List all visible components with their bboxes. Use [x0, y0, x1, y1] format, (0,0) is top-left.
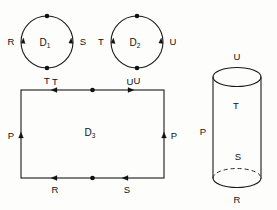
cylinder-label-S: S	[235, 151, 242, 162]
figure-canvas: R S T D1 T U U D2	[0, 0, 277, 210]
cylinder-label-U: U	[233, 51, 240, 62]
rectangle-d3-label-R: R	[51, 184, 58, 195]
cylinder-label-P: P	[200, 126, 207, 137]
circle-d1-vertex-bottom	[45, 66, 50, 71]
rectangle-d3-vertex-top-mid	[90, 88, 95, 93]
circle-d2-group: T U U D2	[98, 14, 177, 86]
circle-d1-label-R: R	[7, 36, 14, 47]
cylinder-group: U T P S R	[200, 51, 261, 205]
rectangle-d3-arrow-top-left	[51, 88, 57, 93]
circle-d1-region-label: D1	[40, 37, 51, 49]
circle-d2-label-U: U	[169, 36, 176, 47]
rectangle-d3-arrow-right-up	[162, 132, 167, 138]
topology-figure: R S T D1 T U U D2	[0, 0, 277, 210]
cylinder-bottom-back-arc-hidden	[213, 169, 261, 178]
rectangle-d3-arrow-bottom-left	[51, 176, 57, 181]
circle-d1-label-T: T	[44, 75, 50, 86]
rectangle-d3-group: T U P P R S D3	[8, 76, 178, 195]
circle-d1-vertex-top	[45, 14, 50, 19]
rectangle-d3-label-P-right: P	[171, 130, 178, 141]
circle-d2-vertex-top	[135, 14, 140, 19]
circle-d2-label-T: T	[98, 36, 104, 47]
circle-d1-label-S: S	[80, 36, 87, 47]
rectangle-d3-arrow-bottom-right	[122, 176, 128, 181]
cylinder-bottom-front-arc	[213, 178, 261, 188]
rectangle-d3-arrow-left-up	[19, 132, 24, 138]
circle-d2-region-label: D2	[130, 37, 141, 49]
circle-d2-label-U-bottom: U	[133, 75, 140, 86]
rectangle-d3-vertex-bottom-mid	[90, 176, 95, 181]
circle-d2-vertex-bottom	[135, 66, 140, 71]
rectangle-d3-label-P-left: P	[8, 130, 15, 141]
rectangle-d3-label-T: T	[52, 76, 58, 87]
rectangle-d3-arrow-top-right	[128, 88, 134, 93]
rectangle-d3-label-S: S	[124, 184, 131, 195]
circle-d1-group: R S T D1	[7, 14, 86, 86]
rectangle-d3-label-U: U	[126, 76, 133, 87]
cylinder-top-ellipse	[213, 68, 261, 87]
cylinder-label-R: R	[233, 194, 240, 205]
cylinder-label-T: T	[233, 100, 239, 111]
rectangle-d3-region-label: D3	[85, 127, 96, 139]
